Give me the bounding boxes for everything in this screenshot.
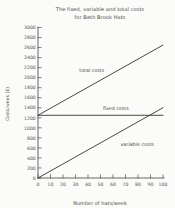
x-tick-label: 20	[60, 182, 66, 187]
x-axis-ticks	[38, 175, 163, 178]
cost-line-chart: The fixed, variable and total costs for …	[0, 0, 175, 208]
y-axis-ticks	[38, 28, 41, 179]
y-tick-label: 2200	[24, 65, 36, 70]
y-tick-label: 1000	[24, 126, 36, 131]
x-tick-label: 0	[37, 182, 40, 187]
x-axis-label: Number of hats/week	[73, 200, 127, 206]
x-tick-label: 100	[159, 182, 168, 187]
chart-title-line-1: The fixed, variable and total costs	[55, 6, 145, 12]
y-tick-label: 600	[27, 146, 36, 151]
y-tick-label: 1600	[24, 95, 36, 100]
y-tick-label: 2600	[24, 45, 36, 50]
y-tick-label: 400	[27, 156, 36, 161]
x-tick-label: 10	[48, 182, 54, 187]
y-tick-label: 2800	[24, 35, 36, 40]
y-tick-label: 1400	[24, 105, 36, 110]
y-tick-label: 2000	[24, 75, 36, 80]
series-lines	[38, 45, 163, 178]
y-tick-label: 200	[27, 166, 36, 171]
y-tick-label: 3000	[24, 25, 36, 30]
y-tick-label: 0	[33, 176, 36, 181]
series-label-variable-costs: variable costs	[121, 142, 155, 147]
chart-title-line-2: for Beth Brook Hats	[75, 14, 126, 20]
y-tick-label: 1200	[24, 116, 36, 121]
y-axis-label: Costs/week (£)	[5, 87, 10, 121]
x-tick-label: 80	[135, 182, 141, 187]
series-label-fixed-costs: fixed costs	[103, 106, 129, 111]
x-tick-label: 40	[85, 182, 91, 187]
x-axis-tick-labels: 0102030405060708090100	[37, 182, 168, 187]
y-tick-label: 2400	[24, 55, 36, 60]
x-tick-label: 50	[98, 182, 104, 187]
chart-figure: The fixed, variable and total costs for …	[0, 0, 175, 208]
series-label-total-costs: total costs	[79, 68, 104, 73]
x-tick-label: 30	[73, 182, 79, 187]
x-tick-label: 60	[110, 182, 116, 187]
x-tick-label: 70	[123, 182, 129, 187]
series-annotations: total costsfixed costsvariable costs	[79, 68, 154, 147]
y-tick-label: 1800	[24, 85, 36, 90]
x-tick-label: 90	[148, 182, 154, 187]
y-tick-label: 800	[27, 136, 36, 141]
series-line-total-costs	[38, 45, 163, 115]
y-axis-tick-labels: 0200400600800100012001400160018002000220…	[24, 25, 36, 181]
